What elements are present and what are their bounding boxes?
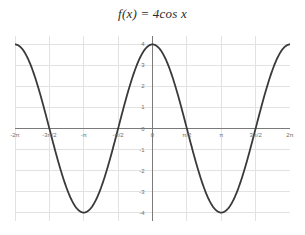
y-tick-label: 3 [141, 62, 144, 68]
x-tick-label: -2π [10, 132, 19, 138]
x-tick-label: 3π/2 [249, 132, 261, 138]
y-tick-label: -4 [139, 210, 144, 216]
cosine-function-chart: f(x) = 4cos x -2π-3π/2-π-π/20π/2π3π/22π … [0, 0, 305, 235]
x-tick-label: 2π [286, 132, 293, 138]
x-tick-label: -3π/2 [42, 132, 56, 138]
plot-svg [15, 36, 290, 221]
x-tick-label: -π/2 [113, 132, 124, 138]
y-tick-label: -2 [139, 168, 144, 174]
y-tick-label: 0 [141, 126, 144, 132]
x-tick-label: π [219, 132, 223, 138]
x-tick-label: 0 [151, 132, 154, 138]
y-tick-label: -3 [139, 189, 144, 195]
plot-area: -2π-3π/2-π-π/20π/2π3π/22π 43210-1-2-3-4 [15, 36, 290, 221]
x-tick-label: π/2 [182, 132, 191, 138]
x-tick-label: -π [81, 132, 87, 138]
y-tick-label: 2 [141, 83, 144, 89]
y-tick-label: -1 [139, 147, 144, 153]
y-tick-label: 4 [141, 41, 144, 47]
y-tick-label: 1 [141, 104, 144, 110]
chart-title: f(x) = 4cos x [0, 6, 305, 22]
